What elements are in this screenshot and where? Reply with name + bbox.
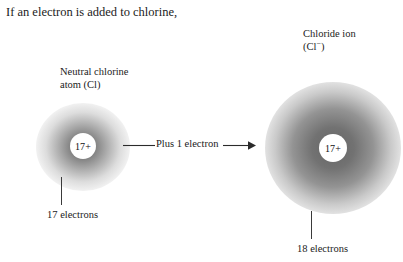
chloride-ion-leader-line <box>311 211 312 239</box>
chloride-ion-label: Chloride ion (Cl−) <box>303 28 356 53</box>
neutral-atom-leader-line <box>61 177 62 205</box>
chloride-ion-nucleus-charge: 17+ <box>325 143 341 154</box>
reaction-arrow-group: Plus 1 electron <box>122 136 256 156</box>
chloride-ion-nucleus: 17+ <box>319 134 347 162</box>
neutral-atom-label: Neutral chlorine atom (Cl) <box>60 66 129 91</box>
neutral-atom-nucleus: 17+ <box>70 133 96 159</box>
electron-addition-diagram: If an electron is added to chlorine, Neu… <box>0 0 403 262</box>
neutral-atom-label-line1: Neutral chlorine <box>60 66 129 79</box>
intro-text: If an electron is added to chlorine, <box>6 6 177 19</box>
neutral-atom-label-line2: atom (Cl) <box>60 79 129 92</box>
formula-prefix: (Cl <box>303 41 316 52</box>
neutral-atom-nucleus-charge: 17+ <box>75 141 91 152</box>
chloride-ion-label-line1: Chloride ion <box>303 28 356 41</box>
neutral-atom-electron-count: 17 electrons <box>47 208 98 221</box>
reaction-arrow-label: Plus 1 electron <box>155 138 219 149</box>
chloride-ion-formula: (Cl−) <box>303 41 356 54</box>
formula-suffix: ) <box>321 41 325 52</box>
chloride-ion-electron-count: 18 electrons <box>297 242 348 255</box>
